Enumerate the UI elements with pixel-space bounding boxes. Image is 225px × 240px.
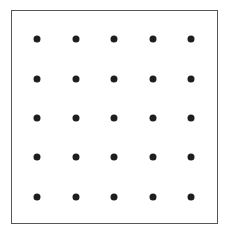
grid-dot xyxy=(188,76,195,83)
grid-dot xyxy=(150,36,157,43)
grid-dot xyxy=(111,194,118,201)
grid-dot xyxy=(73,194,80,201)
grid-dot xyxy=(73,36,80,43)
grid-dot xyxy=(73,115,80,122)
grid-dot xyxy=(73,154,80,161)
grid-dot xyxy=(150,194,157,201)
grid-dot xyxy=(34,76,41,83)
grid-dot xyxy=(188,194,195,201)
grid-dot xyxy=(188,115,195,122)
grid-dot xyxy=(150,115,157,122)
grid-dot xyxy=(188,36,195,43)
grid-dot xyxy=(34,115,41,122)
grid-dot xyxy=(34,194,41,201)
grid-dot xyxy=(111,115,118,122)
grid-dot xyxy=(111,154,118,161)
grid-dot xyxy=(73,76,80,83)
grid-dot xyxy=(150,76,157,83)
grid-dot xyxy=(150,154,157,161)
grid-dot xyxy=(34,36,41,43)
grid-dot xyxy=(188,154,195,161)
grid-dot xyxy=(111,36,118,43)
grid-dot xyxy=(111,76,118,83)
grid-dot xyxy=(34,154,41,161)
